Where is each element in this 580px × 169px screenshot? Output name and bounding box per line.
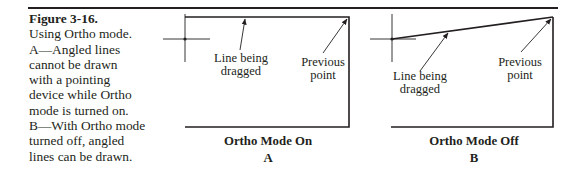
angled-line [392,17,553,39]
arrow-to-previous-point [323,19,347,53]
crosshair-cursor-icon [370,14,416,62]
arrow-to-dragged-line [240,19,245,50]
arrow-to-previous-point [521,19,551,52]
label-point: point [507,68,533,82]
label-dragged: dragged [221,64,262,78]
panel-a: Line being dragged Previous point Ortho … [163,14,349,165]
panel-title: Ortho Mode Off [429,134,519,148]
arrow-to-dragged-line [420,33,448,71]
label-previous: Previous [301,55,345,69]
label-dragged: dragged [400,82,441,96]
label-previous: Previous [498,55,542,69]
panel-b: Line being dragged Previous point Ortho … [370,14,553,165]
figure-illustration: Line being dragged Previous point Ortho … [0,0,580,169]
panel-letter: A [263,151,273,165]
panel-letter: B [470,151,479,165]
panel-title: Ortho Mode On [224,134,312,148]
crosshair-cursor-icon [163,14,210,62]
label-line-being: Line being [214,51,269,65]
label-line-being: Line being [393,69,448,83]
label-point: point [310,68,336,82]
